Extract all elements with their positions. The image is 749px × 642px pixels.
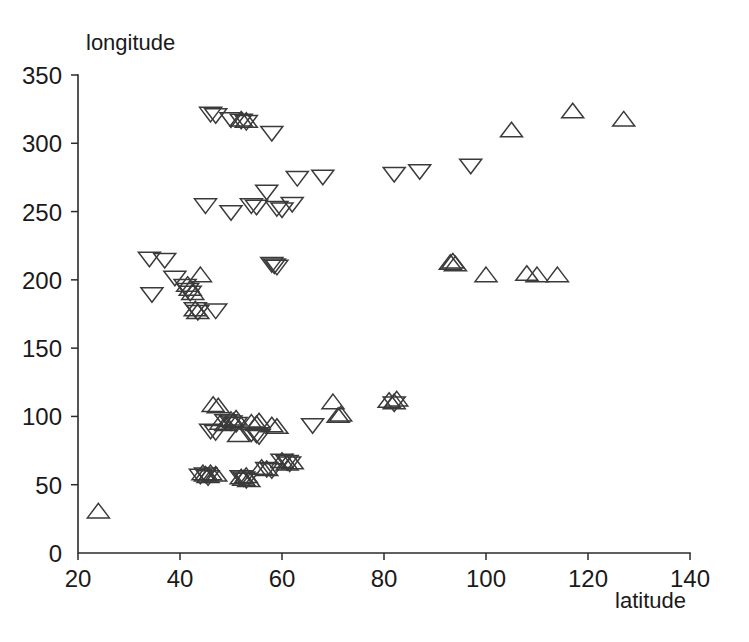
marker-triangle-down (383, 167, 405, 182)
x-tick-label-80: 80 (371, 565, 398, 592)
marker-triangle-up (475, 267, 497, 282)
marker-triangle-down (409, 165, 431, 180)
marker-triangle-down (460, 159, 482, 174)
marker-triangle-up (516, 266, 538, 281)
data-markers (87, 103, 634, 518)
series-down-triangle (138, 107, 481, 488)
y-tick-label-150: 150 (22, 335, 62, 362)
x-tick-label-120: 120 (568, 565, 608, 592)
series-up-triangle (87, 103, 634, 518)
marker-triangle-down (302, 419, 324, 434)
marker-triangle-down (312, 170, 334, 185)
marker-triangle-down (220, 206, 242, 221)
marker-triangle-down (286, 172, 308, 187)
y-axis-title: longitude (86, 30, 175, 55)
marker-triangle-down (141, 288, 163, 303)
x-tick-label-60: 60 (269, 565, 296, 592)
y-tick-label-50: 50 (35, 472, 62, 499)
marker-triangle-up (613, 111, 635, 126)
axes (78, 75, 690, 553)
axis-ticks (71, 75, 690, 560)
marker-triangle-up (562, 103, 584, 118)
y-tick-label-350: 350 (22, 62, 62, 89)
x-axis-title: latitude (615, 588, 686, 613)
x-tick-label-100: 100 (466, 565, 506, 592)
marker-triangle-up (501, 122, 523, 137)
axis-tick-labels: 20406080100120140050100150200250300350 (22, 62, 710, 592)
axis-spines (78, 75, 690, 553)
y-tick-label-200: 200 (22, 267, 62, 294)
y-tick-label-0: 0 (49, 540, 62, 567)
x-tick-label-40: 40 (167, 565, 194, 592)
x-tick-label-20: 20 (65, 565, 92, 592)
marker-triangle-down (256, 185, 278, 200)
marker-triangle-up (87, 503, 109, 518)
y-tick-label-250: 250 (22, 199, 62, 226)
marker-triangle-down (261, 126, 283, 141)
plot-canvas: 20406080100120140050100150200250300350 l… (0, 0, 749, 642)
y-tick-label-300: 300 (22, 130, 62, 157)
marker-triangle-up (546, 267, 568, 282)
marker-triangle-down (138, 252, 160, 267)
y-tick-label-100: 100 (22, 403, 62, 430)
marker-triangle-down (195, 199, 217, 214)
scatter-plot-figure: 20406080100120140050100150200250300350 l… (0, 0, 749, 642)
